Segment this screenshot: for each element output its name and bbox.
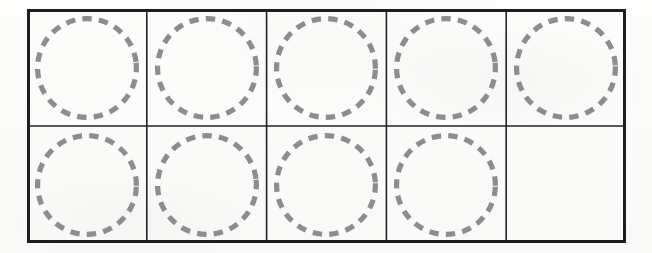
dashed-circle-icon xyxy=(394,16,498,120)
cell-layer xyxy=(27,9,626,243)
circle-outline xyxy=(392,13,501,122)
cell-row2-col5[interactable] xyxy=(506,126,626,243)
dashed-circle-icon xyxy=(274,16,378,120)
cell-row1-col1[interactable] xyxy=(27,9,147,126)
cell-row1-col2[interactable] xyxy=(147,9,267,126)
dashed-circle-icon xyxy=(274,133,378,237)
dashed-circle-icon xyxy=(394,133,498,237)
cell-row2-col1[interactable] xyxy=(27,126,147,243)
dashed-circle-icon xyxy=(514,16,618,120)
cell-row1-col3[interactable] xyxy=(267,9,387,126)
circle-outline xyxy=(152,130,261,239)
dashed-circle-icon xyxy=(155,133,259,237)
cell-row2-col2[interactable] xyxy=(147,126,267,243)
cell-row2-col3[interactable] xyxy=(267,126,387,243)
circle-outline xyxy=(515,16,617,118)
circle-outline xyxy=(156,16,258,118)
circle-outline xyxy=(395,133,497,235)
circle-outline xyxy=(36,133,138,235)
cell-row1-col5[interactable] xyxy=(506,9,626,126)
cell-row1-col4[interactable] xyxy=(386,9,506,126)
dashed-circle-icon xyxy=(35,16,139,120)
dashed-circle-icon xyxy=(35,133,139,237)
dashed-circle-icon xyxy=(155,16,259,120)
circle-outline xyxy=(33,13,142,122)
ten-frame-grid xyxy=(27,9,626,243)
circle-outline xyxy=(275,16,377,118)
cell-row2-col4[interactable] xyxy=(386,126,506,243)
circle-outline xyxy=(275,133,377,235)
ten-frame-worksheet xyxy=(0,0,652,253)
